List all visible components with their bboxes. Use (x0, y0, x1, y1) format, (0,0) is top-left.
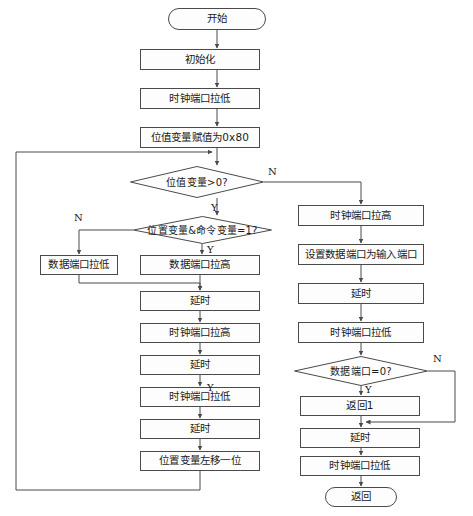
flow-node-label: 设置数据端口为输入端口 (305, 249, 417, 261)
flow-node-init: 初始化 (140, 49, 260, 70)
flow-node-label: 位值变量赋值为0x80 (151, 132, 249, 144)
flow-node-label: 延时 (190, 295, 210, 307)
flow-node-clk_low_r2: 时钟端口拉低 (300, 456, 420, 476)
flow-node-label: 时钟端口拉低 (329, 460, 390, 472)
edge-label-lbl-y-dataport: Y (207, 382, 214, 393)
flow-node-label: 时钟端口拉低 (330, 327, 391, 339)
edge-datalow-to-delay1 (79, 275, 200, 290)
edge-label-lbl-n-bitvar: N (268, 166, 277, 177)
flow-node-data_high: 数据端口拉高 (140, 255, 260, 275)
flow-node-shift_left: 位置变量左移一位 (140, 451, 260, 471)
flow-node-dec_dataport: 数据端口=0? (294, 356, 428, 386)
flow-node-dec_andcmd: 位置变量&命令变量=1? (133, 216, 272, 244)
flow-node-label: 时钟端口拉低 (169, 391, 230, 403)
flow-node-label: 位值变量>0? (166, 177, 227, 188)
edge-label-lbl-y-andcmd: Y (207, 244, 214, 255)
edge-label-lbl-y-bitvar: Y (211, 202, 218, 213)
edge-decandcmd-no-to-datalow (79, 230, 133, 254)
flow-node-set_input: 设置数据端口为输入端口 (298, 244, 424, 265)
flow-node-label: 初始化 (185, 54, 216, 66)
flow-node-label: 位置变量左移一位 (159, 455, 241, 467)
flow-node-delay_3: 延时 (140, 419, 260, 439)
flow-node-clk_high_r: 时钟端口拉高 (298, 205, 424, 226)
flow-node-return_end: 返回 (325, 487, 397, 507)
flow-node-label: 返回 (351, 491, 371, 503)
flow-node-delay_r1: 延时 (298, 283, 424, 304)
flow-node-label: 延时 (190, 359, 210, 371)
edge-decbitvar-no-to-clkhighr (264, 182, 361, 204)
flow-node-clk_low_1: 时钟端口拉低 (140, 88, 260, 109)
flow-node-delay_r2: 延时 (300, 428, 420, 448)
flowchart-canvas: 开始初始化时钟端口拉低位值变量赋值为0x80位值变量>0?位置变量&命令变量=1… (0, 0, 473, 516)
flow-node-delay_1: 延时 (140, 291, 260, 311)
flow-node-label: 时钟端口拉高 (169, 327, 230, 339)
flow-node-return1: 返回1 (300, 396, 420, 416)
flow-node-label: 开始 (207, 13, 227, 25)
flow-node-label: 返回1 (346, 400, 373, 412)
flow-node-label: 数据端口拉高 (169, 259, 230, 271)
flow-node-label: 延时 (190, 423, 210, 435)
flow-node-clk_low_r: 时钟端口拉低 (298, 322, 424, 343)
flow-node-dec_bitvar: 位值变量>0? (130, 166, 264, 198)
edge-loop-back-to-decbitvar (16, 152, 212, 490)
flow-node-bitvar_set: 位值变量赋值为0x80 (140, 127, 260, 148)
flow-node-start: 开始 (168, 8, 266, 30)
flow-node-data_low: 数据端口拉低 (40, 255, 118, 275)
flow-node-clk_high_2: 时钟端口拉高 (140, 323, 260, 343)
flow-node-label: 数据端口=0? (330, 366, 391, 377)
flow-node-label: 数据端口拉低 (48, 259, 109, 271)
flow-node-delay_2: 延时 (140, 355, 260, 375)
flow-node-label: 时钟端口拉高 (330, 210, 391, 222)
edge-label-lbl-y-dataport2: Y (365, 384, 372, 395)
flow-node-label: 位置变量&命令变量=1? (147, 225, 257, 236)
edge-label-lbl-n-dataport: N (433, 353, 442, 364)
flow-node-label: 延时 (351, 288, 371, 300)
flow-node-label: 延时 (350, 432, 370, 444)
edge-label-lbl-n-andcmd: N (74, 212, 83, 223)
flow-node-label: 时钟端口拉低 (169, 93, 230, 105)
flow-node-clk_low_2: 时钟端口拉低 (140, 387, 260, 407)
